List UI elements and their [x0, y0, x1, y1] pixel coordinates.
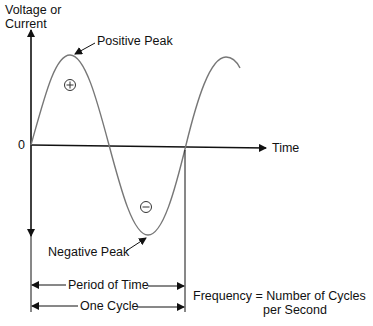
period-label: Period of Time — [68, 278, 149, 292]
y-axis-label-line2: Current — [5, 17, 47, 31]
time-label: Time — [272, 141, 299, 155]
zero-label: 0 — [18, 138, 25, 152]
positive-peak-label: Positive Peak — [97, 34, 173, 48]
frequency-line2: per Second — [263, 303, 327, 317]
y-axis-label-line1: Voltage or — [5, 3, 61, 17]
time-axis — [31, 145, 266, 148]
frequency-line1: Frequency = Number of Cycles — [193, 289, 366, 303]
positive-peak-pointer — [75, 43, 95, 54]
one-cycle-label: One Cycle — [80, 299, 138, 313]
negative-peak-label: Negative Peak — [48, 245, 129, 259]
sine-wave-diagram — [0, 0, 373, 326]
